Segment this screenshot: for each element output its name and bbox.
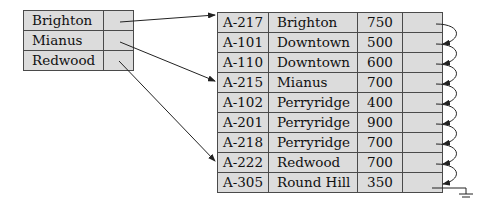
next-pointer-cell — [403, 93, 443, 113]
account-number: A-215 — [218, 73, 269, 93]
branch-name: Downtown — [269, 33, 358, 53]
record-row: A-110 Downtown 600 — [218, 53, 443, 73]
next-pointer-cell — [403, 113, 443, 133]
next-pointer-cell — [403, 13, 443, 33]
branch-name: Perryridge — [269, 113, 358, 133]
index-key: Redwood — [24, 51, 104, 71]
arrow-icon — [119, 61, 215, 161]
account-number: A-222 — [218, 153, 269, 173]
balance: 700 — [358, 73, 403, 93]
index-pointer-cell — [104, 51, 134, 71]
branch-name: Brighton — [269, 13, 358, 33]
branch-name: Perryridge — [269, 133, 358, 153]
branch-name: Redwood — [269, 153, 358, 173]
account-number: A-102 — [218, 93, 269, 113]
index-pointer-cell — [104, 11, 134, 31]
next-pointer-cell — [403, 133, 443, 153]
branch-name: Mianus — [269, 73, 358, 93]
balance: 500 — [358, 33, 403, 53]
next-pointer-cell — [403, 153, 443, 173]
balance: 700 — [358, 133, 403, 153]
next-pointer-cell — [403, 53, 443, 73]
record-row: A-215 Mianus 700 — [218, 73, 443, 93]
branch-name: Round Hill — [269, 173, 358, 193]
record-row: A-305 Round Hill 350 — [218, 173, 443, 193]
account-number: A-217 — [218, 13, 269, 33]
balance: 350 — [358, 173, 403, 193]
account-number: A-305 — [218, 173, 269, 193]
record-row: A-201 Perryridge 900 — [218, 113, 443, 133]
balance: 600 — [358, 53, 403, 73]
data-file-table: A-217 Brighton 750 A-101 Downtown 500 A-… — [217, 12, 443, 193]
index-pointer-cell — [104, 31, 134, 51]
account-number: A-110 — [218, 53, 269, 73]
index-entry: Mianus — [24, 31, 134, 51]
next-pointer-cell — [403, 173, 443, 193]
next-pointer-cell — [403, 73, 443, 93]
branch-name: Perryridge — [269, 93, 358, 113]
balance: 900 — [358, 113, 403, 133]
next-pointer-cell — [403, 33, 443, 53]
balance: 700 — [358, 153, 403, 173]
sparse-index-table: Brighton Mianus Redwood — [23, 10, 134, 71]
arrow-icon — [120, 42, 215, 81]
account-number: A-201 — [218, 113, 269, 133]
record-row: A-101 Downtown 500 — [218, 33, 443, 53]
balance: 400 — [358, 93, 403, 113]
index-key: Mianus — [24, 31, 104, 51]
index-entry: Brighton — [24, 11, 134, 31]
record-row: A-218 Perryridge 700 — [218, 133, 443, 153]
balance: 750 — [358, 13, 403, 33]
index-key: Brighton — [24, 11, 104, 31]
arrow-icon — [120, 15, 215, 22]
record-row: A-222 Redwood 700 — [218, 153, 443, 173]
branch-name: Downtown — [269, 53, 358, 73]
account-number: A-218 — [218, 133, 269, 153]
record-row: A-102 Perryridge 400 — [218, 93, 443, 113]
account-number: A-101 — [218, 33, 269, 53]
index-entry: Redwood — [24, 51, 134, 71]
record-row: A-217 Brighton 750 — [218, 13, 443, 33]
